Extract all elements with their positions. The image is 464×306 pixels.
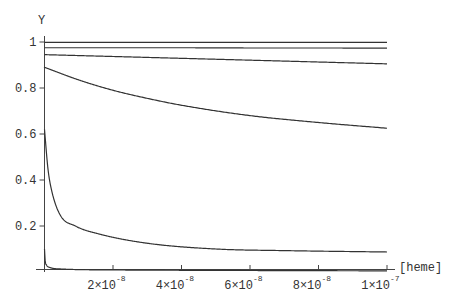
chart: Y [heme] 0.20.40.60.81 2×10-84×10-86×10-… — [0, 0, 464, 306]
x-axis-label: [heme] — [399, 261, 442, 275]
x-tick-label: 8×10 — [293, 279, 322, 293]
x-tick-exponent: -8 — [322, 274, 332, 283]
y-tick-label: 1 — [29, 36, 36, 50]
x-tick-label: 6×10 — [224, 279, 253, 293]
data-curve — [45, 55, 388, 64]
curves — [45, 42, 388, 270]
x-tick-exponent: -8 — [253, 274, 263, 283]
y-tick-label: 0.8 — [15, 82, 37, 96]
data-curve — [45, 67, 388, 128]
x-tick-label: 1×10 — [361, 279, 390, 293]
data-curve — [45, 249, 388, 271]
x-tick-label: 2×10 — [87, 279, 116, 293]
x-tick-exponent: -8 — [185, 274, 195, 283]
y-tick-label: 0.2 — [15, 220, 37, 234]
y-ticks: 0.20.40.60.81 — [15, 36, 45, 234]
x-tick-exponent: -8 — [116, 274, 126, 283]
data-curve — [45, 129, 388, 252]
y-tick-label: 0.6 — [15, 128, 37, 142]
x-tick-exponent: -7 — [390, 274, 400, 283]
axes: Y [heme] — [36, 14, 442, 275]
x-tick-label: 4×10 — [156, 279, 185, 293]
y-axis-label: Y — [38, 14, 45, 28]
y-tick-label: 0.4 — [15, 174, 37, 188]
